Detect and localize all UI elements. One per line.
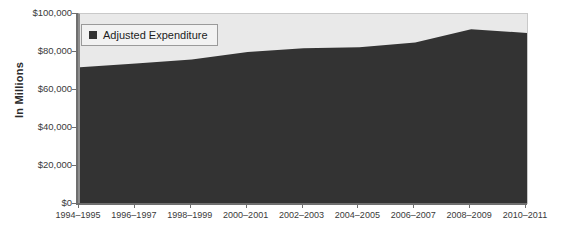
y-tick-label: $60,000 [0,83,72,94]
x-tick-mark [134,203,135,208]
area-chart: In Millions $0$20,000$40,000$60,000$80,0… [0,0,567,234]
y-tick-label: $40,000 [0,121,72,132]
y-tick-label: $80,000 [0,45,72,56]
x-tick-mark [78,203,79,208]
x-tick-mark [302,203,303,208]
x-axis-line [78,203,527,205]
x-tick-mark [413,203,414,208]
x-tick-label: 2010–2011 [485,210,565,220]
y-axis-ticks: $0$20,000$40,000$60,000$80,000$100,000 [0,0,72,234]
y-tick-label: $100,000 [0,7,72,18]
legend-item-label: Adjusted Expenditure [103,29,208,41]
chart-legend: Adjusted Expenditure [81,24,218,46]
y-tick-label: $0 [0,197,72,208]
square-marker-icon [89,31,97,39]
y-tick-label: $20,000 [0,159,72,170]
x-tick-mark [246,203,247,208]
x-tick-mark [190,203,191,208]
y-axis-line [76,13,78,205]
x-tick-mark [357,203,358,208]
x-tick-mark [525,203,526,208]
x-tick-mark [469,203,470,208]
